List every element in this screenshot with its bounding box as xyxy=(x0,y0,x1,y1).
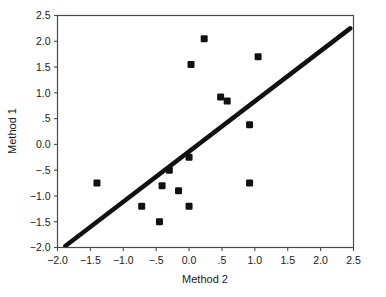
x-tick-label: −1.5 xyxy=(80,254,101,266)
x-tick-label: −1.0 xyxy=(113,254,134,266)
data-point xyxy=(217,93,224,100)
data-point xyxy=(156,218,163,225)
x-tick-label: .5 xyxy=(218,254,227,266)
y-tick-label: 1.5 xyxy=(36,61,51,73)
data-point xyxy=(224,98,231,105)
data-point xyxy=(255,53,262,60)
x-tick-label: 2.0 xyxy=(313,254,328,266)
plot-canvas: −2.0−1.5−1.0−.50.0.51.01.52.02.5 −2.0−1.… xyxy=(0,0,386,297)
x-tick-label: −.5 xyxy=(149,254,164,266)
scatter-plot-figure: −2.0−1.5−1.0−.50.0.51.01.52.02.5 −2.0−1.… xyxy=(0,0,386,297)
data-point xyxy=(246,180,253,187)
y-tick-label: .5 xyxy=(42,112,51,124)
y-tick-label: −1.5 xyxy=(30,216,51,228)
data-point xyxy=(246,121,253,128)
y-tick-label: −1.0 xyxy=(30,190,51,202)
y-tick-label: −2.0 xyxy=(30,241,51,253)
data-point xyxy=(175,187,182,194)
data-point xyxy=(186,154,193,161)
y-tick-label: 2.5 xyxy=(36,9,51,21)
data-point xyxy=(93,180,100,187)
x-tick-label: 1.5 xyxy=(280,254,295,266)
x-axis-title: Method 2 xyxy=(182,273,228,285)
x-tick-label: 2.5 xyxy=(346,254,361,266)
data-point xyxy=(201,35,208,42)
y-axis-title: Method 1 xyxy=(6,108,18,154)
y-tick-label: 2.0 xyxy=(36,35,51,47)
data-point xyxy=(166,167,173,174)
y-tick-label: 0.0 xyxy=(36,138,51,150)
data-point xyxy=(186,203,193,210)
y-tick-label: 1.0 xyxy=(36,87,51,99)
data-point xyxy=(138,203,145,210)
y-tick-label: −.5 xyxy=(36,164,51,176)
data-point xyxy=(188,61,195,68)
data-point xyxy=(159,182,166,189)
x-tick-label: −2.0 xyxy=(47,254,68,266)
x-tick-label: 0.0 xyxy=(182,254,197,266)
x-tick-label: 1.0 xyxy=(248,254,263,266)
